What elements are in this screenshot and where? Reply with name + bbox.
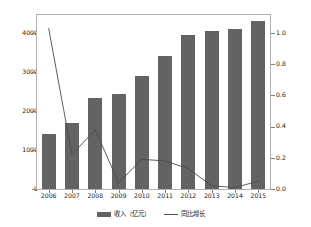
right-tick-mark <box>271 189 275 190</box>
right-tick-mark <box>271 64 275 65</box>
x-tick-mark <box>142 190 143 193</box>
x-tick-mark <box>119 190 120 193</box>
x-tick-mark <box>188 190 189 193</box>
x-tick-mark <box>235 190 236 193</box>
right-tick-label-0.0: 0.0 <box>276 186 304 192</box>
legend-label-revenue: 收入（亿元） <box>114 211 150 218</box>
plot-area <box>36 14 271 190</box>
right-tick-mark <box>271 95 275 96</box>
right-tick-mark <box>271 158 275 159</box>
line-series-growth <box>37 15 270 189</box>
legend-item-revenue[interactable]: 收入（亿元） <box>97 211 150 218</box>
legend-line-swatch-icon <box>164 214 178 215</box>
right-tick-label-0.6: 0.6 <box>276 92 304 98</box>
right-tick-mark <box>271 33 275 34</box>
right-tick-label-0.8: 0.8 <box>276 61 304 67</box>
right-tick-mark <box>271 127 275 128</box>
plot-inner <box>37 15 270 189</box>
legend-item-growth[interactable]: 同比增长 <box>164 211 205 218</box>
chart-container: 01000200030004000 0.00.20.40.60.81.0 200… <box>0 0 311 227</box>
x-tick-mark <box>165 190 166 193</box>
x-tick-mark <box>72 190 73 193</box>
right-tick-label-1.0: 1.0 <box>276 30 304 36</box>
right-tick-label-0.4: 0.4 <box>276 123 304 129</box>
x-tick-mark <box>212 190 213 193</box>
growth-polyline <box>49 28 259 187</box>
right-tick-label-0.2: 0.2 <box>276 155 304 161</box>
x-tick-mark <box>258 190 259 193</box>
legend-bar-swatch-icon <box>97 212 111 217</box>
x-tick-mark <box>49 190 50 193</box>
legend-label-growth: 同比增长 <box>181 211 205 218</box>
x-tick-label-2015: 2015 <box>243 193 273 200</box>
x-tick-mark <box>95 190 96 193</box>
chart-legend: 收入（亿元） 同比增长 <box>97 208 205 221</box>
